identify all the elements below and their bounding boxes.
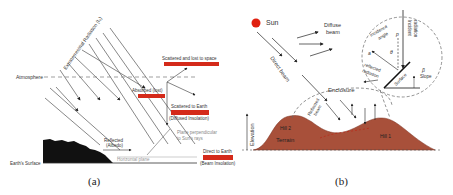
hill1-label: Hill 1 xyxy=(380,133,391,139)
surface-label-b: Surface xyxy=(393,72,408,87)
beam-label: (Beam Insolation) xyxy=(200,161,236,166)
slope-label: Slope xyxy=(420,74,432,79)
extraterrestrial-label: Extraterrestrial Radiation (I₀) xyxy=(62,15,103,70)
detail-circle xyxy=(362,17,442,97)
panel-a: Extraterrestrial Radiation (I₀) Atmosphe… xyxy=(10,15,236,188)
direct-label: Direct to Earth xyxy=(203,149,232,154)
a-symbol: a xyxy=(368,50,371,56)
diffused-label: (Diffused Insolation) xyxy=(169,116,209,121)
ray xyxy=(60,70,80,100)
diffuse-label-1: Diffuse xyxy=(324,22,341,28)
direct-beam-label: Direct beam xyxy=(269,55,291,83)
hill2-label: Hill 2 xyxy=(280,125,291,131)
valley-arrows xyxy=(326,100,375,124)
ray xyxy=(68,63,100,100)
ray xyxy=(110,28,195,144)
surface-label: Earth's Surface xyxy=(10,161,41,166)
diagram-canvas: Extraterrestrial Radiation (I₀) Atmosphe… xyxy=(0,0,453,195)
earth-terrain xyxy=(43,139,113,163)
diffuse-label-2: beam xyxy=(326,29,340,35)
beta-symbol: β xyxy=(421,67,425,73)
panel-b: Sun Diffuse beam Direct beam Enclosure R… xyxy=(242,10,442,188)
scatter-arrow xyxy=(167,82,195,95)
terrain-hills xyxy=(253,115,435,150)
ray xyxy=(56,87,78,111)
incident-label-1: Incident xyxy=(407,20,412,37)
scattered-lost-label: Scattered and lost to space xyxy=(162,56,217,61)
plane-perp-label-2: to Sun's rays xyxy=(177,136,204,141)
plane-perp-label-1: Plane perpendicular xyxy=(177,130,218,135)
diffuse-arrow xyxy=(310,49,332,56)
absorbed-label: Absorbed (lost) xyxy=(132,88,163,93)
caption-a: (a) xyxy=(88,175,101,188)
scattered-lost-bar xyxy=(164,62,219,66)
incident-label-2: radiation xyxy=(413,20,418,38)
terrain-label: Terrain xyxy=(276,137,294,143)
scattered-earth-label: Scattered to Earth xyxy=(171,104,208,109)
horizontal-plane-label: Horizontal plane xyxy=(117,157,150,162)
absorbed-bar xyxy=(138,94,165,98)
enclosure-label: Enclosure xyxy=(328,87,355,93)
sun-label: Sun xyxy=(266,19,279,26)
reflected-arrow-b xyxy=(364,80,378,82)
caption-b: (b) xyxy=(335,175,348,188)
scattered-earth-bar xyxy=(171,110,209,115)
elevation-label: Elevation xyxy=(249,123,255,146)
valley-arrow xyxy=(326,103,340,120)
radiation-rays xyxy=(45,28,195,150)
p-symbol: p xyxy=(395,31,399,37)
theta-symbol: θ xyxy=(390,49,393,55)
albedo-label: (Albedo) xyxy=(106,143,124,148)
diffuse-arrow xyxy=(297,32,318,38)
sun-icon xyxy=(252,19,261,28)
atmosphere-label: Atmosphere xyxy=(16,74,43,80)
scatter-arrow xyxy=(167,68,187,82)
direct-beam-arrow xyxy=(302,75,327,101)
valley-arrow xyxy=(340,100,356,118)
direct-bar xyxy=(203,155,233,160)
